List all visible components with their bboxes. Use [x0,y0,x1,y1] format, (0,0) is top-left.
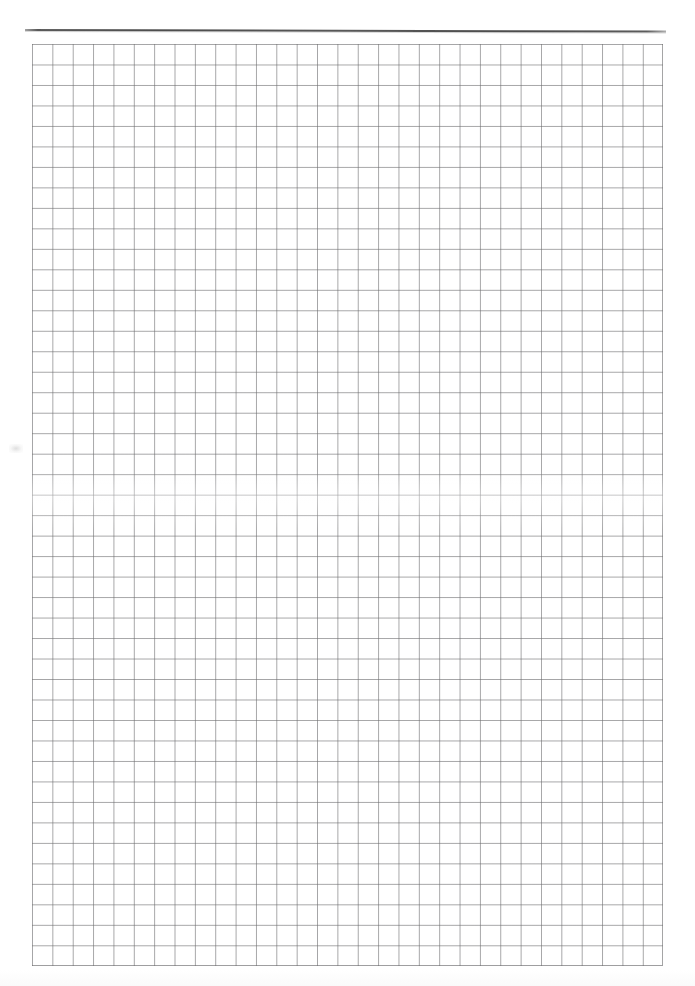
page-bottom-edge [0,970,695,986]
graph-paper-grid [32,44,663,966]
scan-smudge [9,444,23,453]
header-horizontal-rule [25,29,666,33]
grid-scan-softening [32,44,662,965]
scanned-page: Blank scanned quadrille graph paper shee… [0,0,695,986]
